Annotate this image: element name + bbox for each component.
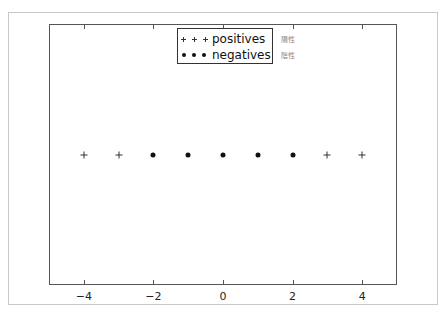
- plus-marker-icon: [80, 151, 87, 158]
- annotation-negative: 陰性: [281, 50, 295, 60]
- x-tick-mark-top: [362, 25, 363, 29]
- x-tick-mark-top: [293, 25, 294, 29]
- legend-label: positives: [212, 32, 265, 46]
- legend-item-negatives: negatives: [178, 47, 271, 63]
- dot-marker-icon: [255, 152, 260, 157]
- x-tick-mark-top: [84, 25, 85, 29]
- annotation-positive: 陽性: [281, 34, 295, 44]
- dot-marker-icon: [221, 152, 226, 157]
- x-tick-mark: [153, 280, 154, 284]
- dot-marker-icon: [151, 152, 156, 157]
- dot-marker-icon: [186, 152, 191, 157]
- x-tick-mark: [293, 280, 294, 284]
- dot-icon: [178, 53, 210, 57]
- dot-marker-icon: [290, 152, 295, 157]
- x-tick-label: −4: [76, 290, 92, 303]
- x-tick-mark: [362, 280, 363, 284]
- x-tick-label: 2: [289, 290, 296, 303]
- plus-marker-icon: [115, 151, 122, 158]
- plus-marker-icon: [324, 151, 331, 158]
- legend-label: negatives: [212, 48, 271, 62]
- plus-marker-icon: [359, 151, 366, 158]
- x-tick-mark: [84, 280, 85, 284]
- x-tick-label: 4: [359, 290, 366, 303]
- x-tick-label: −2: [145, 290, 161, 303]
- legend-item-positives: positives: [178, 31, 265, 47]
- plus-icon: [178, 37, 210, 42]
- legend: positives negatives: [177, 28, 273, 64]
- caption-strip: [8, 308, 208, 314]
- x-tick-label: 0: [220, 290, 227, 303]
- x-tick-mark: [223, 280, 224, 284]
- x-tick-mark-top: [153, 25, 154, 29]
